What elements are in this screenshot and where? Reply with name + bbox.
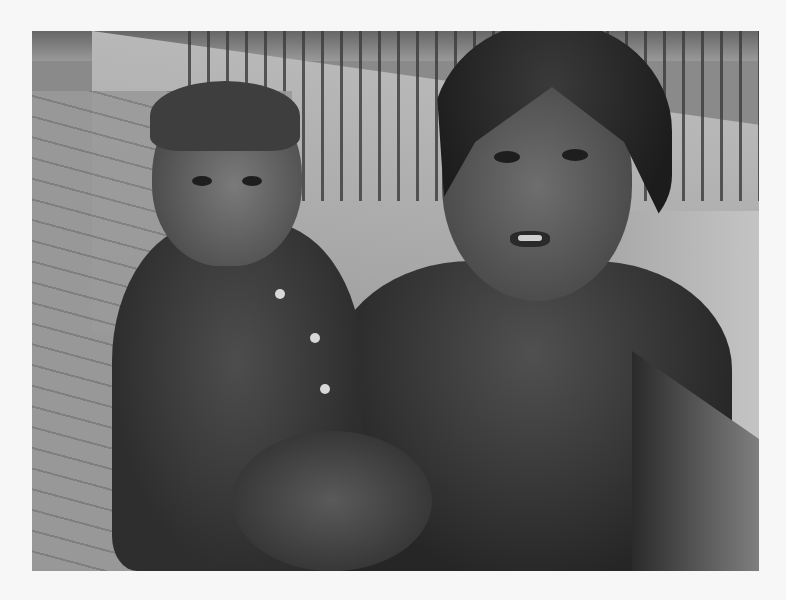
toddler-eye-right <box>242 176 262 186</box>
girl-eye-right <box>562 149 588 161</box>
girl-arm <box>232 431 432 571</box>
toddler-eye-left <box>192 176 212 186</box>
photograph <box>32 31 759 571</box>
shirt-button <box>275 289 285 299</box>
toddler-hair <box>150 81 300 151</box>
shirt-button <box>320 384 330 394</box>
girl-teeth <box>518 235 542 241</box>
shirt-button <box>310 333 320 343</box>
girl-eye-left <box>494 151 520 163</box>
